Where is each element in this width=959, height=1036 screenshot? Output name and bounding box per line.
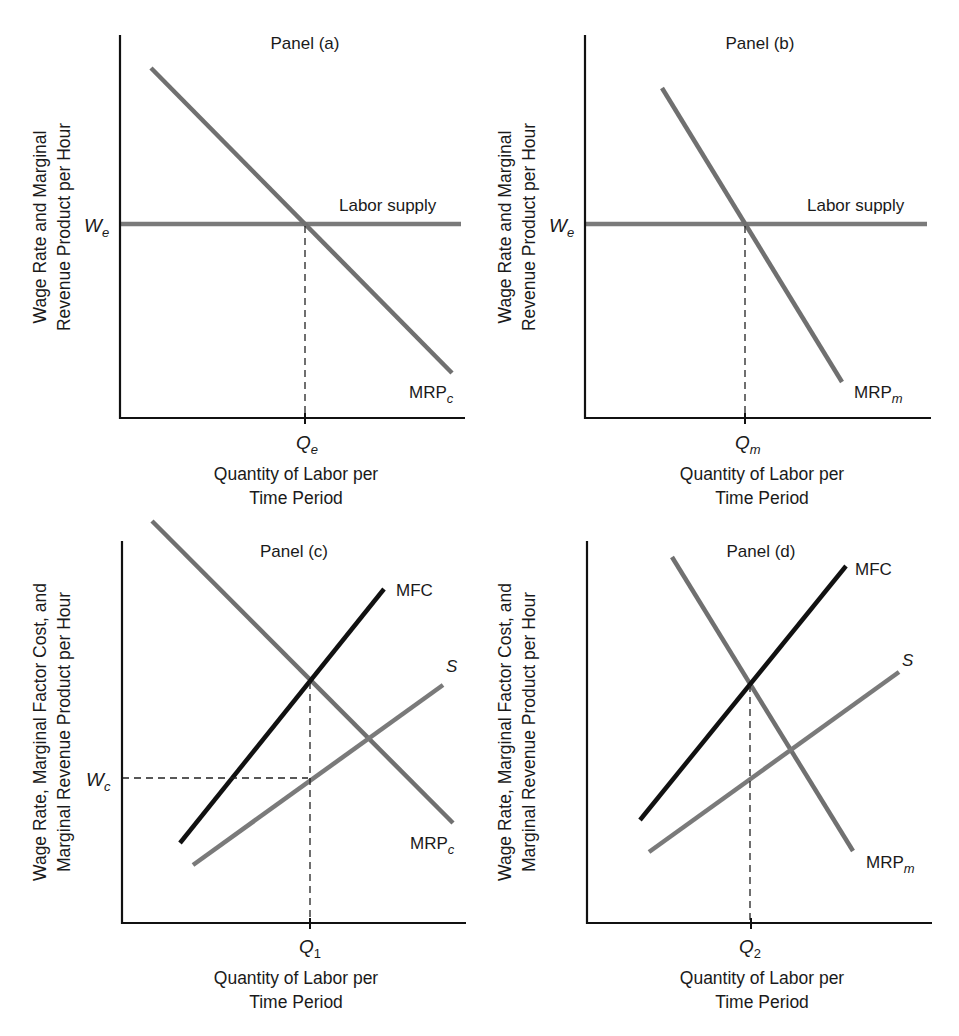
panel-b-title: Panel (b) bbox=[726, 34, 795, 53]
panel-d-q2-label: Q2 bbox=[739, 936, 761, 961]
panel-d-mrp-line bbox=[672, 557, 853, 851]
panel-a-mrp-label: MRPc bbox=[409, 383, 454, 406]
panel-b-we-label: We bbox=[549, 215, 574, 240]
panel-a-title: Panel (a) bbox=[271, 34, 340, 53]
panel-b-mrp-line bbox=[662, 88, 842, 382]
panel-a-labor-supply-label: Labor supply bbox=[339, 196, 437, 215]
panel-c: Panel (c) Wage Rate, Marginal Factor Cos… bbox=[30, 521, 466, 1012]
panel-a-ylabel-line2: Revenue Product per Hour bbox=[54, 123, 74, 331]
panel-d-xlabel-line1: Quantity of Labor per bbox=[680, 968, 845, 988]
panel-b-ylabel-line2: Revenue Product per Hour bbox=[519, 123, 539, 331]
panel-b: Panel (b) Wage Rate and Marginal Revenue… bbox=[495, 34, 931, 508]
panel-c-ylabel-line2: Marginal Revenue Product per Hour bbox=[54, 592, 74, 872]
panel-b-mrp-label: MRPm bbox=[854, 383, 903, 406]
panel-d-mrp-label: MRPm bbox=[866, 853, 915, 876]
panel-d-ylabel-line2: Marginal Revenue Product per Hour bbox=[519, 592, 539, 872]
panel-b-labor-supply-label: Labor supply bbox=[807, 196, 905, 215]
panel-d-ylabel-line1: Wage Rate, Marginal Factor Cost, and bbox=[495, 583, 515, 881]
panel-c-xlabel-line2: Time Period bbox=[249, 992, 343, 1012]
panel-b-qm-label: Qm bbox=[735, 432, 761, 457]
panel-b-xlabel-line1: Quantity of Labor per bbox=[680, 464, 845, 484]
panel-d-mfc-label: MFC bbox=[855, 560, 892, 579]
panel-c-xlabel-line1: Quantity of Labor per bbox=[214, 968, 379, 988]
panel-a: Panel (a) Wage Rate and Marginal Revenue… bbox=[30, 34, 465, 508]
panel-d-s-label: S bbox=[902, 651, 914, 670]
panel-b-ylabel-line1: Wage Rate and Marginal bbox=[495, 131, 515, 324]
panel-d-xlabel-line2: Time Period bbox=[715, 992, 809, 1012]
panel-c-wc-label: Wc bbox=[86, 769, 111, 794]
panel-c-s-label: S bbox=[446, 657, 458, 676]
panel-c-mfc-line bbox=[180, 589, 384, 843]
panel-c-mrp-label: MRPc bbox=[410, 834, 455, 857]
panel-a-ylabel-line1: Wage Rate and Marginal bbox=[30, 131, 50, 324]
panel-c-q1-label: Q1 bbox=[299, 936, 321, 961]
panel-b-xlabel-line2: Time Period bbox=[715, 488, 809, 508]
panel-a-xlabel-line2: Time Period bbox=[249, 488, 343, 508]
panel-d: Panel (d) Wage Rate, Marginal Factor Cos… bbox=[495, 541, 932, 1012]
figure-four-panels: Panel (a) Wage Rate and Marginal Revenue… bbox=[0, 0, 959, 1036]
panel-c-title: Panel (c) bbox=[260, 542, 328, 561]
panel-c-mfc-label: MFC bbox=[396, 581, 433, 600]
panel-a-mrp-line bbox=[151, 68, 452, 373]
panel-d-title: Panel (d) bbox=[727, 542, 796, 561]
panel-a-we-label: We bbox=[84, 215, 109, 240]
panel-a-qe-label: Qe bbox=[296, 432, 318, 457]
panel-c-ylabel-line1: Wage Rate, Marginal Factor Cost, and bbox=[30, 583, 50, 881]
panel-a-xlabel-line1: Quantity of Labor per bbox=[214, 464, 379, 484]
